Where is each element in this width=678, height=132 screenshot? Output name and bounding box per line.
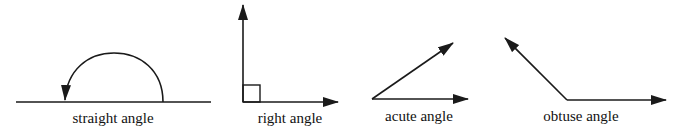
angle-types-diagram: straight angle right angle acute angle o… bbox=[0, 0, 678, 132]
right-angle-square-marker bbox=[243, 85, 260, 102]
right-angle-label: right angle bbox=[258, 111, 323, 126]
obtuse-angle-diagonal-ray bbox=[505, 38, 567, 100]
straight-angle-arc-arrow-icon bbox=[65, 53, 163, 102]
obtuse-angle-figure bbox=[505, 38, 666, 100]
straight-angle-figure bbox=[16, 53, 211, 102]
acute-angle-diagonal-ray bbox=[372, 43, 453, 99]
obtuse-angle-label: obtuse angle bbox=[543, 109, 618, 124]
acute-angle-figure bbox=[372, 43, 468, 99]
acute-angle-label: acute angle bbox=[385, 109, 453, 124]
right-angle-figure bbox=[243, 5, 338, 102]
straight-angle-label: straight angle bbox=[72, 111, 153, 126]
